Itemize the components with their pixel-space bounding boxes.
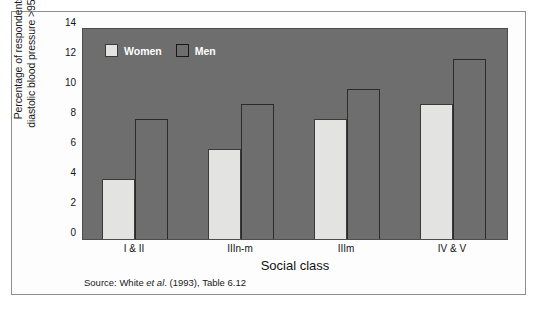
legend-swatch-women-icon <box>105 44 118 57</box>
x-tick-i-ii: I & II <box>124 243 145 254</box>
source-note: Source: White et al. (1993), Table 6.12 <box>84 277 246 288</box>
bar-men-i-ii <box>135 119 168 239</box>
y-tick-4: 4 <box>52 167 76 178</box>
y-tick-8: 8 <box>52 107 76 118</box>
bars-layer <box>83 29 507 239</box>
y-tick-12: 12 <box>52 47 76 58</box>
y-axis-title-line1: Percentage of respondents with <box>12 0 25 156</box>
figure-chart: Percentage of respondents with diastolic… <box>0 0 538 319</box>
legend-label-men: Men <box>195 45 216 57</box>
y-tick-14: 14 <box>52 17 76 28</box>
y-tick-2: 2 <box>52 197 76 208</box>
bar-women-iiin-m <box>208 149 241 239</box>
source-suffix: . (1993), Table 6.12 <box>164 277 246 288</box>
y-axis-tick-labels: 14 12 10 8 6 4 2 0 <box>52 22 76 244</box>
x-tick-iiin-m: IIIn-m <box>227 243 253 254</box>
bar-women-iv-v <box>420 104 453 239</box>
y-tick-6: 6 <box>52 137 76 148</box>
bar-women-i-ii <box>102 179 135 239</box>
legend-item-women: Women <box>105 44 162 57</box>
bar-men-iiin-m <box>241 104 274 239</box>
bar-women-iiim <box>314 119 347 239</box>
x-tick-iiim: IIIm <box>338 243 355 254</box>
x-tick-iv-v: IV & V <box>438 243 466 254</box>
y-tick-10: 10 <box>52 77 76 88</box>
y-axis-title-line2: diastolic blood pressure >95 mmHg <box>25 0 38 156</box>
legend-label-women: Women <box>124 45 162 57</box>
bar-men-iv-v <box>453 59 486 239</box>
source-italic: et al <box>146 277 164 288</box>
legend-swatch-men-icon <box>176 44 189 57</box>
source-prefix: Source: White <box>84 277 146 288</box>
x-axis-title: Social class <box>82 258 508 273</box>
chart-legend: Women Men <box>105 44 216 57</box>
y-tick-0: 0 <box>52 227 76 238</box>
plot-area: Women Men <box>82 28 508 240</box>
x-axis-tick-labels: I & IIIIIn-mIIImIV & V <box>82 243 508 259</box>
y-axis-title: Percentage of respondents with diastolic… <box>12 0 46 156</box>
bar-men-iiim <box>347 89 380 239</box>
legend-item-men: Men <box>176 44 216 57</box>
